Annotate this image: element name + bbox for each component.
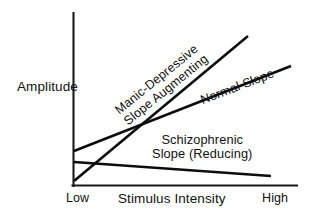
x-axis-label: Stimulus Intensity [118,192,226,207]
series-label-schizophrenic: Schizophrenic Slope (Reducing) [152,133,252,161]
series-label-schizophrenic-line2: Slope (Reducing) [152,147,252,161]
amplitude-stimulus-intensity-diagram: Amplitude Stimulus Intensity Low High Ma… [0,0,310,218]
series-line-schizophrenic [74,162,271,176]
series-label-schizophrenic-line1: Schizophrenic [161,132,243,147]
x-tick-low-label: Low [66,192,89,206]
x-tick-high-label: High [262,192,288,206]
y-axis-label: Amplitude [17,80,78,95]
diagram-canvas [0,0,310,218]
